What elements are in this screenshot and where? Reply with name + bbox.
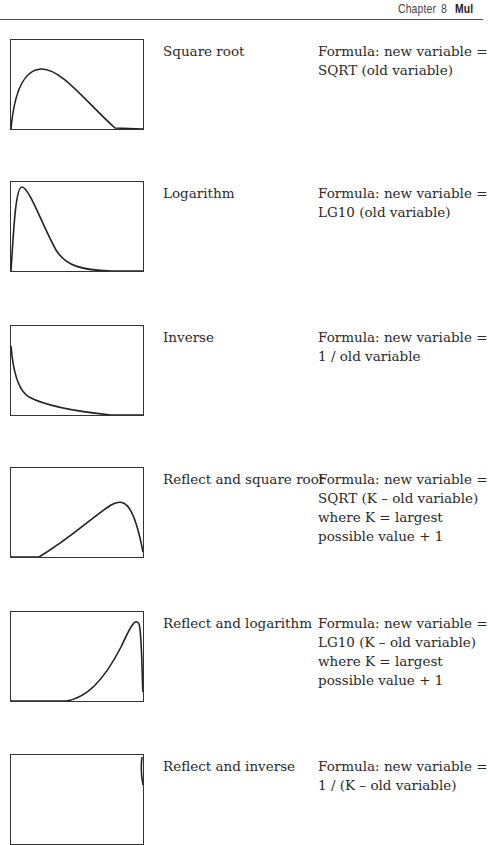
transformation-formula: Formula: new variable = LG10 (old variab…	[318, 184, 488, 222]
formula-line: SQRT (old variable)	[318, 61, 488, 80]
formula-line: LG10 (old variable)	[318, 203, 488, 222]
negative-skew-curve-icon	[11, 468, 143, 557]
formula-line: Formula: new variable =	[318, 614, 488, 633]
transformation-formula: Formula: new variable = SQRT (K – old va…	[318, 470, 488, 546]
transformation-name: Square root	[163, 42, 245, 61]
transformation-formula: Formula: new variable = 1 / (K – old var…	[318, 757, 488, 795]
formula-line: where K = largest	[318, 508, 488, 527]
transformation-name: Inverse	[163, 328, 214, 347]
transformation-formula: Formula: new variable = LG10 (K – old va…	[318, 614, 488, 690]
chapter-number: 8	[441, 1, 447, 16]
distribution-plot	[10, 39, 144, 130]
transformation-name: Logarithm	[163, 184, 234, 203]
formula-line: possible value + 1	[318, 671, 488, 690]
transformation-name: Reflect and square root	[163, 470, 324, 489]
distribution-plot	[10, 467, 144, 558]
l-shaped-curve-icon	[11, 326, 143, 415]
transformation-formula: Formula: new variable = 1 / old variable	[318, 328, 488, 366]
formula-line: possible value + 1	[318, 527, 488, 546]
transformation-formula: Formula: new variable = SQRT (old variab…	[318, 42, 488, 80]
positive-skew-curve-icon	[11, 40, 143, 129]
chapter-label: Chapter	[398, 1, 436, 16]
formula-line: Formula: new variable =	[318, 757, 488, 776]
formula-line: Formula: new variable =	[318, 328, 488, 347]
running-header: Chapter8Mul	[0, 0, 483, 20]
formula-line: where K = largest	[318, 652, 488, 671]
part-title: Mul	[455, 1, 473, 16]
j-shaped-curve-icon	[11, 755, 143, 844]
distribution-plot	[10, 181, 144, 272]
formula-line: 1 / (K – old variable)	[318, 776, 488, 795]
formula-line: Formula: new variable =	[318, 470, 488, 489]
distribution-plot	[10, 754, 144, 845]
formula-line: Formula: new variable =	[318, 42, 488, 61]
transformation-name: Reflect and logarithm	[163, 614, 312, 633]
formula-line: LG10 (K – old variable)	[318, 633, 488, 652]
strong-positive-skew-curve-icon	[11, 182, 143, 271]
formula-line: Formula: new variable =	[318, 184, 488, 203]
transformation-name: Reflect and inverse	[163, 757, 295, 776]
distribution-plot	[10, 611, 144, 702]
formula-line: 1 / old variable	[318, 347, 488, 366]
distribution-plot	[10, 325, 144, 416]
formula-line: SQRT (K – old variable)	[318, 489, 488, 508]
strong-negative-skew-curve-icon	[11, 612, 143, 701]
chapter-heading: Chapter8Mul	[398, 1, 473, 16]
